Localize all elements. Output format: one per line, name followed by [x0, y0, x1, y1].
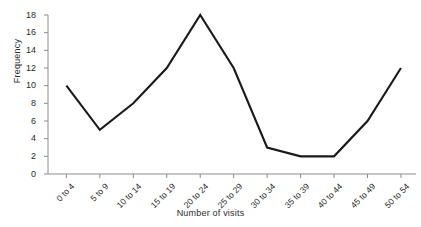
x-tick-label: 30 to 34: [249, 182, 277, 210]
x-axis-tick-labels: 0 to 45 to 910 to 1415 to 1920 to 2425 t…: [0, 0, 421, 227]
x-tick-label: 15 to 19: [149, 182, 177, 210]
x-tick-label: 50 to 54: [383, 182, 411, 210]
x-tick-label: 35 to 39: [283, 182, 311, 210]
x-tick-label: 10 to 14: [116, 182, 144, 210]
x-tick-label: 0 to 4: [55, 182, 76, 203]
frequency-polygon-chart: Frequency 024681012141618 0 to 45 to 910…: [0, 0, 421, 227]
x-tick-label: 5 to 9: [89, 182, 110, 203]
x-tick-label: 25 to 29: [216, 182, 244, 210]
x-axis-title: Number of visits: [0, 208, 421, 218]
x-tick-label: 20 to 24: [182, 182, 210, 210]
x-tick-label: 45 to 49: [350, 182, 378, 210]
x-tick-label: 40 to 44: [316, 182, 344, 210]
